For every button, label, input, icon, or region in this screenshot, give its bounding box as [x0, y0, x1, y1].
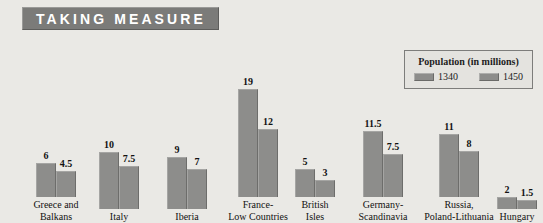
bar-value-label: 8: [467, 139, 472, 149]
bar[interactable]: [295, 169, 315, 198]
bar[interactable]: [517, 200, 537, 209]
bar-value-label: 11: [444, 122, 453, 132]
bar[interactable]: [167, 157, 187, 208]
bar-group-bars: 53: [295, 47, 335, 197]
bar-item: 11: [439, 47, 459, 197]
bar[interactable]: [439, 134, 459, 197]
bar[interactable]: [383, 154, 403, 197]
bar-value-label: 10: [104, 140, 114, 150]
bar[interactable]: [119, 166, 139, 209]
bar[interactable]: [315, 180, 335, 197]
bar-value-label: 7: [195, 157, 200, 167]
bar[interactable]: [258, 129, 278, 197]
bar-item: 3: [315, 47, 335, 197]
bar-value-label: 9: [175, 145, 180, 155]
bar-group-label: Italy: [84, 211, 154, 223]
bar-value-label: 11.5: [365, 119, 382, 129]
bar[interactable]: [363, 131, 383, 197]
bar[interactable]: [459, 151, 479, 197]
bar-group-bars: 107.5: [99, 59, 139, 209]
bar-value-label: 3: [323, 168, 328, 178]
bar-item: 11.5: [363, 47, 383, 197]
bar-item: 6: [36, 47, 56, 197]
bar-item: 8: [459, 47, 479, 197]
bar[interactable]: [497, 197, 517, 208]
bar-group-bars: 64.5: [36, 47, 76, 197]
bar-value-label: 7.5: [123, 154, 136, 164]
bar-item: 19: [238, 47, 258, 197]
bar-item: 5: [295, 47, 315, 197]
bar-item: 12: [258, 47, 278, 197]
bar-group-bars: 11.57.5: [363, 47, 403, 197]
bar-group-label: British Isles: [283, 199, 347, 222]
bar-chart-plot: 64.5Greece and Balkans107.5Italy97Iberia…: [0, 0, 543, 223]
bar-item: 4.5: [56, 47, 76, 197]
bar-item: 7.5: [383, 47, 403, 197]
bar-group: 107.5Italy: [84, 59, 154, 223]
bar-value-label: 12: [263, 117, 273, 127]
bar-item: 9: [167, 59, 187, 209]
bar[interactable]: [99, 152, 119, 209]
bar-group: 53British Isles: [283, 47, 347, 222]
chart-page: TAKING MEASURE Population (in millions) …: [0, 0, 543, 223]
bar-value-label: 4.5: [60, 159, 73, 169]
bar-value-label: 7.5: [387, 142, 400, 152]
bar-value-label: 19: [243, 77, 253, 87]
bar-group: 21.5Hungary: [490, 59, 543, 223]
bar-value-label: 2: [505, 185, 510, 195]
bar-value-label: 6: [44, 151, 49, 161]
bar-value-label: 1.5: [521, 188, 534, 198]
bar[interactable]: [36, 163, 56, 197]
bar-item: 1.5: [517, 59, 537, 209]
bar-group-bars: 97: [167, 59, 207, 209]
bar-item: 10: [99, 59, 119, 209]
bar-group-bars: 21.5: [497, 59, 537, 209]
bar-item: 7: [187, 59, 207, 209]
bar-value-label: 5: [303, 157, 308, 167]
bar-item: 7.5: [119, 59, 139, 209]
bar[interactable]: [238, 89, 258, 197]
bar-item: 2: [497, 59, 517, 209]
bar[interactable]: [56, 171, 76, 197]
bar-group-label: Hungary: [490, 211, 543, 223]
bar-group-bars: 118: [439, 47, 479, 197]
bar[interactable]: [187, 169, 207, 209]
bar-group-bars: 1912: [238, 47, 278, 197]
